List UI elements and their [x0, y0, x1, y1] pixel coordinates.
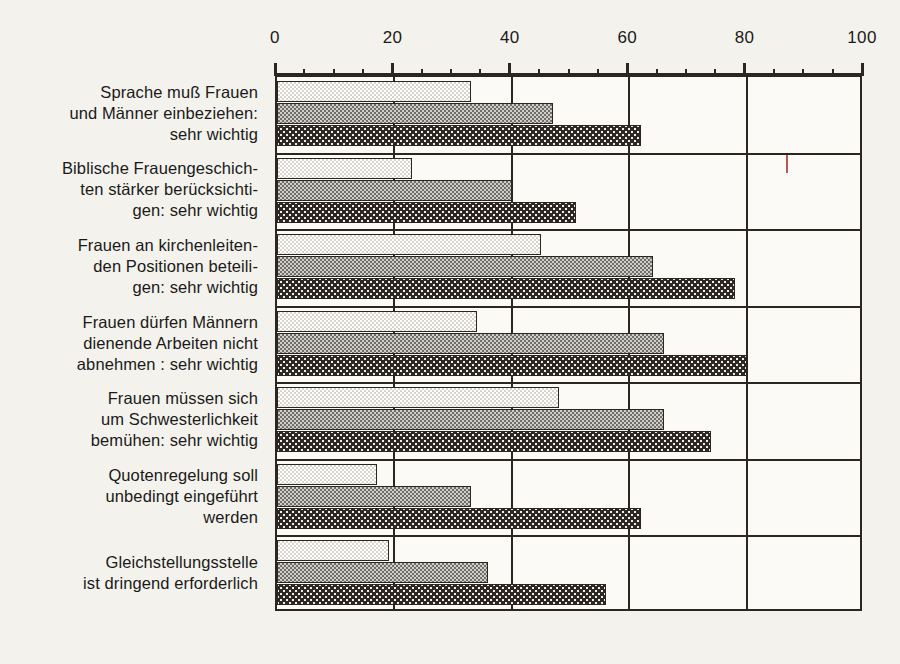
x-tick-label-20: 20	[383, 28, 403, 48]
bar-series-3-dark-5	[277, 508, 641, 529]
bar-series-1-light-6	[277, 540, 389, 561]
x-tick-label-0: 0	[270, 28, 280, 48]
x-tick-label-100: 100	[847, 28, 876, 48]
bar-group	[277, 307, 860, 384]
plot-area	[275, 75, 862, 611]
bar-group	[277, 77, 860, 154]
scan-top-strip	[0, 0, 900, 12]
category-label: Biblische Frauengeschich- ten stärker be…	[0, 158, 258, 221]
x-axis-tick-labels: 020406080100	[0, 28, 900, 50]
bar-group	[277, 460, 860, 537]
bar-series-1-light-0	[277, 81, 471, 102]
bar-series-3-dark-6	[277, 584, 606, 605]
bar-series-2-medium-6	[277, 562, 488, 583]
x-tick-label-60: 60	[617, 28, 637, 48]
bar-series-3-dark-1	[277, 202, 576, 223]
bar-group	[277, 154, 860, 231]
bar-series-1-light-1	[277, 158, 412, 179]
category-label: Frauen dürfen Männern dienende Arbeiten …	[0, 312, 258, 375]
category-label: Gleichstellungsstelle ist dringend erfor…	[0, 552, 258, 594]
category-label: Frauen an kirchenleiten- den Positionen …	[0, 235, 258, 298]
x-tick-label-40: 40	[500, 28, 520, 48]
bar-series-2-medium-0	[277, 103, 553, 124]
horizontal-bar-chart: 020406080100 Sprache muß Frauen und Männ…	[0, 0, 900, 664]
bar-series-3-dark-2	[277, 278, 735, 299]
category-label: Quotenregelung soll unbedingt eingeführt…	[0, 465, 258, 528]
bar-series-2-medium-4	[277, 409, 664, 430]
bar-group	[277, 383, 860, 460]
bar-series-2-medium-1	[277, 180, 512, 201]
bar-group	[277, 230, 860, 307]
category-label: Frauen müssen sich um Schwesterlichkeit …	[0, 388, 258, 451]
bar-series-1-light-5	[277, 464, 377, 485]
x-tick-label-80: 80	[735, 28, 755, 48]
bar-series-2-medium-3	[277, 333, 664, 354]
bar-series-2-medium-5	[277, 486, 471, 507]
bar-series-1-light-3	[277, 311, 477, 332]
bar-series-1-light-2	[277, 234, 541, 255]
category-label: Sprache muß Frauen und Männer einbeziehe…	[0, 82, 258, 145]
bar-group	[277, 536, 860, 613]
bar-series-3-dark-4	[277, 431, 711, 452]
bar-series-3-dark-3	[277, 355, 747, 376]
bar-series-3-dark-0	[277, 125, 641, 146]
bar-series-1-light-4	[277, 387, 559, 408]
bar-series-2-medium-2	[277, 256, 653, 277]
